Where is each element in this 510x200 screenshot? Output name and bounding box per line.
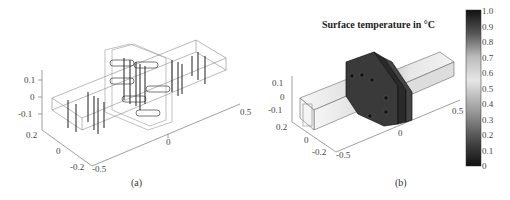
svg-text:0.8: 0.8	[482, 37, 494, 47]
duct-wireframe-a	[52, 40, 226, 130]
svg-text:0: 0	[56, 146, 61, 156]
colorbar-ticks: 1.0 0.9 0.8 0.7 0.6 0.5 0.4 0.3 0.2 0.1 …	[482, 6, 494, 171]
y-tick-labels-a: 0.2 0 -0.2	[26, 130, 84, 172]
svg-text:0.2: 0.2	[482, 130, 493, 140]
svg-text:0.5: 0.5	[240, 107, 252, 117]
panel-a: 0.1 0 -0.1 0.2 0 -0.2 -0.5 0 0.5	[18, 40, 252, 189]
z-tick-labels-a: 0.1 0 -0.1	[18, 75, 35, 119]
svg-text:0.1: 0.1	[272, 78, 283, 88]
svg-text:-0.2: -0.2	[70, 162, 84, 172]
svg-text:0.9: 0.9	[482, 22, 494, 32]
svg-text:0.2: 0.2	[26, 130, 37, 140]
svg-text:1.0: 1.0	[482, 6, 494, 16]
svg-text:-0.2: -0.2	[312, 147, 326, 157]
arrow-field-a	[68, 52, 205, 134]
caption-b: (b)	[395, 177, 407, 189]
svg-text:0.6: 0.6	[482, 68, 494, 78]
svg-text:0.5: 0.5	[452, 106, 464, 116]
panel-b: Surface temperature in °C 0.1 0 -0.1 0.2…	[268, 6, 494, 189]
svg-text:0.4: 0.4	[482, 99, 494, 109]
svg-text:-0.5: -0.5	[92, 164, 107, 174]
svg-text:0.3: 0.3	[482, 115, 494, 125]
svg-text:0: 0	[398, 128, 403, 138]
svg-text:0.1: 0.1	[24, 75, 35, 85]
svg-text:0: 0	[280, 92, 285, 102]
svg-text:0: 0	[30, 92, 35, 102]
flange-wireframe-a	[105, 44, 172, 130]
flange	[346, 52, 412, 126]
svg-text:0.2: 0.2	[276, 122, 287, 132]
svg-text:0.7: 0.7	[482, 53, 494, 63]
svg-text:0: 0	[304, 135, 309, 145]
svg-text:-0.5: -0.5	[336, 150, 351, 160]
svg-text:0.1: 0.1	[482, 146, 493, 156]
colorbar: 1.0 0.9 0.8 0.7 0.6 0.5 0.4 0.3 0.2 0.1 …	[466, 6, 494, 171]
svg-text:0.5: 0.5	[482, 84, 494, 94]
svg-text:0: 0	[482, 161, 487, 171]
svg-text:0: 0	[166, 137, 171, 147]
svg-text:-0.1: -0.1	[268, 105, 282, 115]
svg-text:-0.1: -0.1	[18, 109, 32, 119]
plot-title: Surface temperature in °C	[322, 19, 435, 30]
z-tick-labels-b: 0.1 0 -0.1	[268, 78, 285, 115]
figure: 0.1 0 -0.1 0.2 0 -0.2 -0.5 0 0.5	[0, 0, 510, 200]
caption-a: (a)	[131, 177, 142, 189]
